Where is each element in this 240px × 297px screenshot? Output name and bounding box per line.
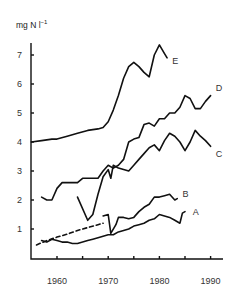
y-tick-label: 3 <box>17 166 22 176</box>
series-labels: EDCBA <box>172 56 223 217</box>
x-tick-label: 1970 <box>98 276 118 286</box>
series-d <box>42 96 211 200</box>
line-chart: 12345671960197019801990 EDCBA <box>0 0 240 297</box>
series-b <box>103 194 177 233</box>
series-label-b: B <box>182 189 188 199</box>
x-tick-label: 1960 <box>47 276 67 286</box>
series-label-d: D <box>216 83 223 93</box>
series-layer <box>31 45 210 245</box>
series-e <box>31 45 167 142</box>
y-tick-label: 6 <box>17 79 22 89</box>
x-tick-label: 1980 <box>149 276 169 286</box>
y-tick-label: 7 <box>17 50 22 60</box>
y-tick-label: 2 <box>17 195 22 205</box>
series-label-e: E <box>172 56 178 66</box>
series-label-c: C <box>216 149 223 159</box>
y-tick-label: 4 <box>17 137 22 147</box>
series-label-a: A <box>193 207 199 217</box>
x-tick-label: 1990 <box>201 276 221 286</box>
axis-lines <box>31 43 223 259</box>
y-tick-label: 5 <box>17 108 22 118</box>
y-tick-label: 1 <box>17 224 22 234</box>
